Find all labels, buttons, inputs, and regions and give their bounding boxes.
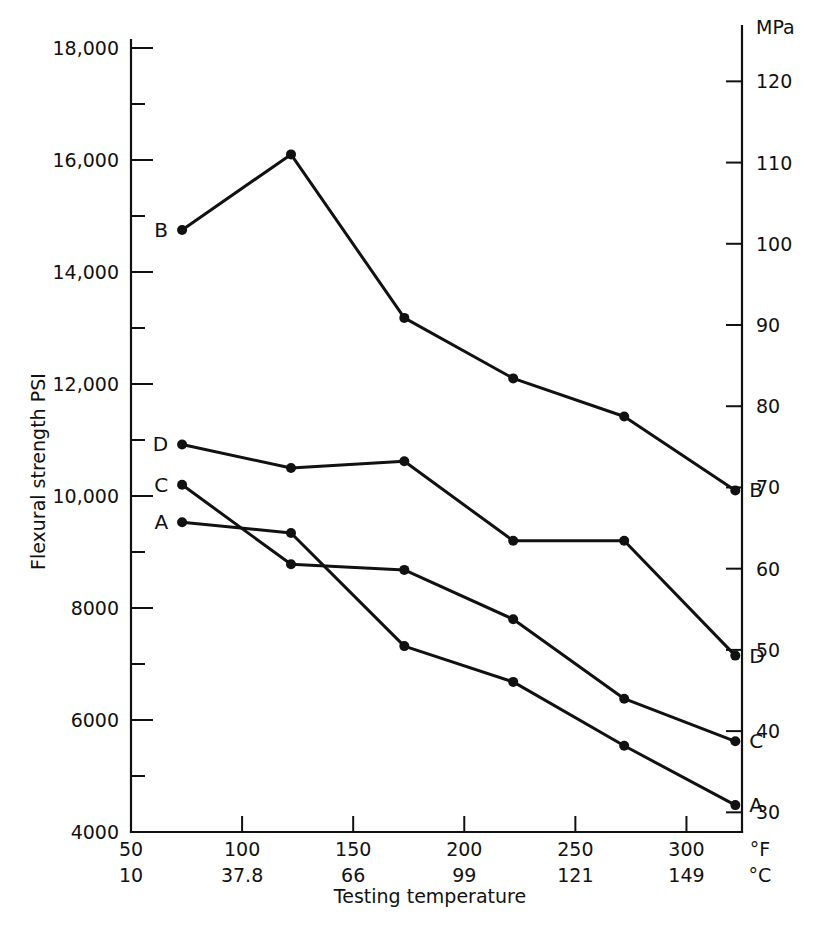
series-end-label-B: B [749, 478, 763, 502]
data-point-D [399, 456, 409, 466]
data-point-C [177, 480, 187, 490]
series-start-label-A: A [154, 510, 168, 534]
y2-tick-label: 80 [756, 395, 780, 417]
x-tick-label-c: 121 [557, 864, 593, 886]
data-point-C [619, 694, 629, 704]
x-tick-label-f: 100 [224, 838, 260, 860]
y2-tick-label: 90 [756, 314, 780, 336]
y-tick-label: 6000 [71, 709, 119, 731]
x-unit-fahrenheit: °F [750, 838, 770, 860]
y-tick-label: 14,000 [53, 261, 119, 283]
y-axis-right-tick-labels: 30405060708090100110120 [756, 70, 792, 823]
data-point-B [177, 225, 187, 235]
series-start-label-B: B [154, 218, 168, 242]
series-endpoint-labels: BBDDCCAA [153, 218, 765, 817]
y-tick-label: 12,000 [53, 373, 119, 395]
x-tick-label-f: 50 [119, 838, 143, 860]
y-tick-label: 4000 [71, 821, 119, 843]
series-start-label-D: D [153, 432, 168, 456]
series-line-C [182, 485, 735, 742]
x-axis-ticks [242, 816, 686, 832]
series-line-A [182, 522, 735, 805]
data-point-D [508, 536, 518, 546]
y-axis-left-ticks [131, 48, 153, 832]
y-tick-label: 16,000 [53, 149, 119, 171]
data-point-B [399, 313, 409, 323]
x-axis-celsius-labels: 1037.86699121149 [119, 864, 705, 886]
data-point-A [286, 528, 296, 538]
axes-frame [131, 26, 742, 832]
data-point-B [286, 149, 296, 159]
data-point-A [730, 800, 740, 810]
series-start-label-C: C [154, 473, 168, 497]
x-tick-label-f: 300 [668, 838, 704, 860]
data-point-A [399, 641, 409, 651]
data-point-D [730, 651, 740, 661]
y-axis-title: Flexural strength PSI [27, 373, 49, 570]
y-axis-left-tick-labels: 40006000800010,00012,00014,00016,00018,0… [53, 37, 119, 843]
data-point-C [399, 565, 409, 575]
y2-tick-label: 60 [756, 558, 780, 580]
y-axis-right-ticks [726, 81, 742, 812]
x-axis-title: Testing temperature [333, 885, 526, 907]
data-point-D [177, 440, 187, 450]
x-tick-label-c: 99 [452, 864, 476, 886]
data-point-A [177, 517, 187, 527]
series-line-D [182, 445, 735, 656]
x-unit-celsius: °C [749, 864, 772, 886]
data-point-A [619, 741, 629, 751]
y-tick-label: 18,000 [53, 37, 119, 59]
x-tick-label-f: 150 [335, 838, 371, 860]
data-point-B [619, 412, 629, 422]
series-end-label-D: D [749, 644, 764, 668]
y-tick-label: 8000 [71, 597, 119, 619]
y-tick-label: 10,000 [53, 485, 119, 507]
data-point-B [508, 373, 518, 383]
series-line-B [182, 154, 735, 490]
data-point-C [508, 614, 518, 624]
data-point-D [619, 536, 629, 546]
data-point-C [730, 736, 740, 746]
data-point-D [286, 463, 296, 473]
y2-tick-label: 120 [756, 70, 792, 92]
chart-figure: 40006000800010,00012,00014,00016,00018,0… [0, 0, 823, 926]
x-tick-label-f: 250 [557, 838, 593, 860]
series-end-label-C: C [749, 729, 763, 753]
x-tick-label-c: 149 [668, 864, 704, 886]
data-point-B [730, 485, 740, 495]
x-tick-label-c: 37.8 [221, 864, 263, 886]
data-point-A [508, 677, 518, 687]
y2-tick-label: 110 [756, 152, 792, 174]
y2-axis-title: MPa [756, 16, 795, 38]
flexural-strength-line-chart: 40006000800010,00012,00014,00016,00018,0… [0, 0, 823, 926]
x-axis-fahrenheit-labels: 50100150200250300 [119, 838, 705, 860]
x-tick-label-f: 200 [446, 838, 482, 860]
x-tick-label-c: 10 [119, 864, 143, 886]
x-tick-label-c: 66 [341, 864, 365, 886]
y2-tick-label: 100 [756, 233, 792, 255]
data-series-group [177, 149, 740, 810]
data-point-C [286, 559, 296, 569]
series-end-label-A: A [749, 793, 763, 817]
